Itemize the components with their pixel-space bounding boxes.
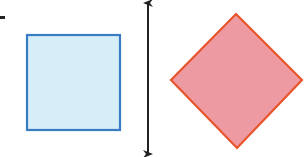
red-diamond <box>171 14 302 148</box>
blue-square <box>27 35 120 130</box>
bullet-marker <box>0 16 5 19</box>
reflection-diagram <box>0 0 306 157</box>
